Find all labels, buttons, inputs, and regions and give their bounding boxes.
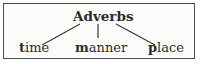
child-rest: anner	[89, 40, 127, 55]
child-rest: lace	[157, 40, 184, 55]
child-node-place: place	[148, 41, 184, 55]
child-node-manner: manner	[75, 41, 127, 55]
child-initial: p	[148, 40, 157, 55]
root-node-adverbs: Adverbs	[73, 9, 134, 23]
child-rest: ime	[25, 40, 49, 55]
child-initial: m	[75, 40, 89, 55]
child-node-time: time	[19, 41, 49, 55]
